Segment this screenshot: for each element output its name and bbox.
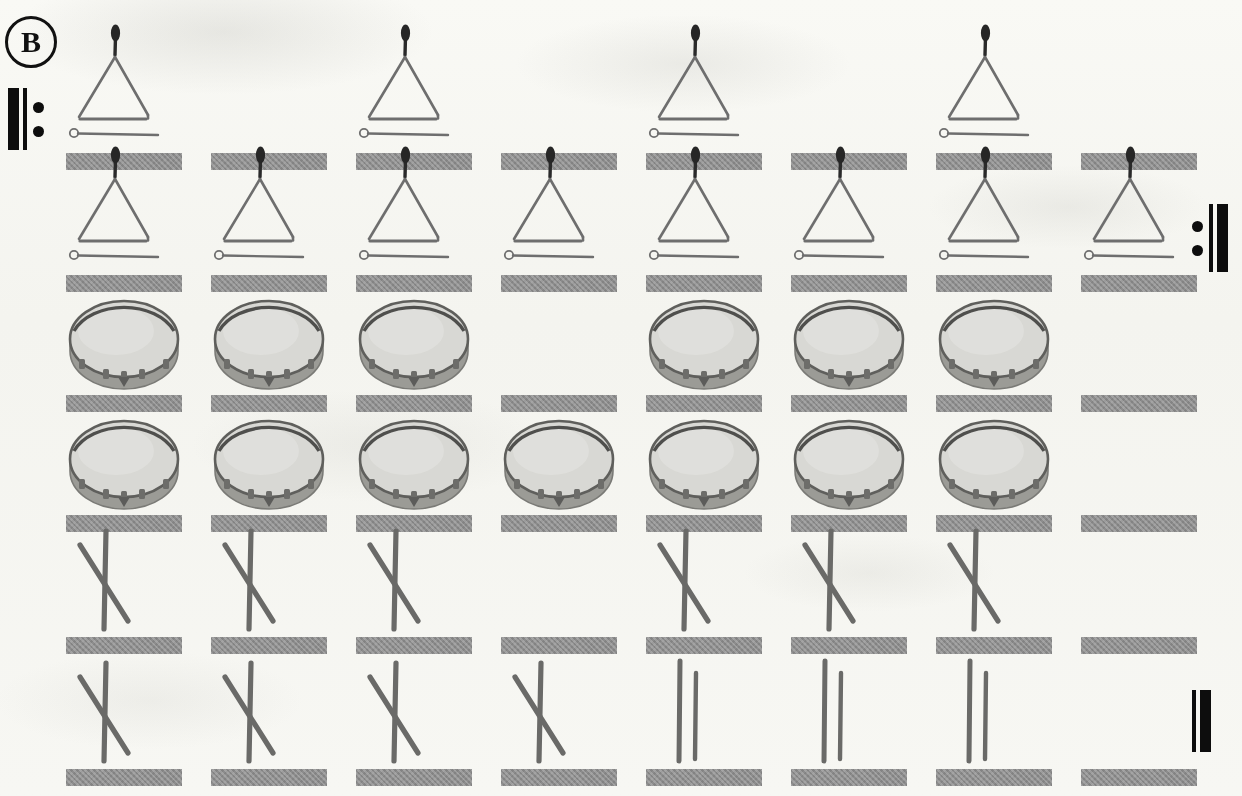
beat-cell[interactable] bbox=[791, 540, 907, 654]
beat-cell[interactable] bbox=[211, 180, 327, 292]
beat-bar[interactable] bbox=[646, 275, 762, 292]
beat-bar[interactable] bbox=[211, 769, 327, 786]
beat-cell[interactable] bbox=[791, 300, 907, 412]
beat-bar[interactable] bbox=[66, 637, 182, 654]
claves-parallel-icon bbox=[646, 657, 762, 767]
beat-bar[interactable] bbox=[646, 769, 762, 786]
beat-cell[interactable] bbox=[936, 540, 1052, 654]
beat-cell[interactable] bbox=[356, 180, 472, 292]
hand-drum-icon bbox=[66, 413, 182, 513]
barline-thick bbox=[8, 88, 19, 150]
beat-bar[interactable] bbox=[936, 275, 1052, 292]
beat-bar[interactable] bbox=[1081, 637, 1197, 654]
beat-cell[interactable] bbox=[1081, 420, 1197, 532]
beat-cell[interactable] bbox=[936, 420, 1052, 532]
beat-cell[interactable] bbox=[211, 662, 327, 786]
beat-cell[interactable] bbox=[356, 300, 472, 412]
beat-cell[interactable] bbox=[646, 420, 762, 532]
claves-crossed-icon bbox=[211, 525, 327, 635]
beat-cell[interactable] bbox=[501, 540, 617, 654]
beat-bar[interactable] bbox=[646, 395, 762, 412]
beat-cell[interactable] bbox=[356, 420, 472, 532]
beat-bar[interactable] bbox=[791, 769, 907, 786]
triangle-icon bbox=[66, 25, 182, 151]
beat-bar[interactable] bbox=[1081, 515, 1197, 532]
beat-bar[interactable] bbox=[66, 275, 182, 292]
claves-crossed-icon bbox=[356, 657, 472, 767]
beat-cell[interactable] bbox=[66, 300, 182, 412]
beat-cell[interactable] bbox=[1081, 662, 1197, 786]
beat-bar[interactable] bbox=[791, 275, 907, 292]
beat-cell[interactable] bbox=[501, 300, 617, 412]
beat-cell[interactable] bbox=[936, 180, 1052, 292]
beat-cell[interactable] bbox=[356, 662, 472, 786]
beat-cell[interactable] bbox=[791, 180, 907, 292]
beat-cell[interactable] bbox=[501, 180, 617, 292]
beat-cell[interactable] bbox=[646, 180, 762, 292]
hand-drum-icon bbox=[646, 413, 762, 513]
beat-cell[interactable] bbox=[936, 662, 1052, 786]
beat-cell[interactable] bbox=[66, 540, 182, 654]
beat-bar[interactable] bbox=[501, 515, 617, 532]
beat-cell[interactable] bbox=[791, 420, 907, 532]
beat-cell[interactable] bbox=[1081, 180, 1197, 292]
claves-crossed-icon bbox=[66, 525, 182, 635]
beat-cell[interactable] bbox=[646, 662, 762, 786]
beat-cell[interactable] bbox=[1081, 300, 1197, 412]
beat-cell[interactable] bbox=[646, 540, 762, 654]
hand-drum-icon bbox=[356, 413, 472, 513]
beat-cell[interactable] bbox=[501, 662, 617, 786]
beat-cell[interactable] bbox=[66, 180, 182, 292]
claves-crossed-icon bbox=[501, 657, 617, 767]
beat-cell[interactable] bbox=[936, 300, 1052, 412]
repeat-dots bbox=[1186, 204, 1209, 272]
hand-drum-icon bbox=[791, 413, 907, 513]
beat-bar[interactable] bbox=[211, 637, 327, 654]
beat-bar[interactable] bbox=[501, 395, 617, 412]
beat-bar[interactable] bbox=[936, 395, 1052, 412]
panel-label: B bbox=[5, 16, 57, 68]
beat-bar[interactable] bbox=[501, 275, 617, 292]
beat-bar[interactable] bbox=[356, 395, 472, 412]
claves-parallel-icon bbox=[791, 657, 907, 767]
claves-crossed-icon bbox=[66, 657, 182, 767]
beat-bar[interactable] bbox=[1081, 275, 1197, 292]
beat-cell[interactable] bbox=[211, 540, 327, 654]
repeat-start-sign bbox=[8, 88, 50, 150]
beat-cell[interactable] bbox=[66, 662, 182, 786]
beat-cell[interactable] bbox=[646, 300, 762, 412]
beat-bar[interactable] bbox=[791, 395, 907, 412]
beat-bar[interactable] bbox=[66, 395, 182, 412]
beat-cell[interactable] bbox=[501, 420, 617, 532]
beat-cell[interactable] bbox=[211, 300, 327, 412]
repeat-dot-lower bbox=[1192, 245, 1203, 256]
rhythm-row bbox=[0, 420, 1242, 532]
beat-bar[interactable] bbox=[646, 637, 762, 654]
beat-bar[interactable] bbox=[356, 769, 472, 786]
beat-bar[interactable] bbox=[501, 769, 617, 786]
beat-bar[interactable] bbox=[936, 769, 1052, 786]
rhythm-row bbox=[0, 300, 1242, 412]
repeat-dots bbox=[27, 88, 50, 150]
beat-cell[interactable] bbox=[211, 420, 327, 532]
triangle-icon bbox=[791, 147, 907, 273]
beat-cell[interactable] bbox=[1081, 540, 1197, 654]
beat-bar[interactable] bbox=[211, 395, 327, 412]
beat-bar[interactable] bbox=[1081, 769, 1197, 786]
beat-bar[interactable] bbox=[936, 637, 1052, 654]
rhythm-row bbox=[0, 540, 1242, 654]
beat-cell[interactable] bbox=[791, 662, 907, 786]
beat-bar[interactable] bbox=[211, 275, 327, 292]
beat-bar[interactable] bbox=[356, 637, 472, 654]
beat-cell[interactable] bbox=[356, 540, 472, 654]
beat-bar[interactable] bbox=[356, 275, 472, 292]
hand-drum-icon bbox=[211, 293, 327, 393]
beat-bar[interactable] bbox=[791, 637, 907, 654]
beat-bar[interactable] bbox=[66, 769, 182, 786]
beat-cell[interactable] bbox=[66, 420, 182, 532]
triangle-icon bbox=[356, 147, 472, 273]
repeat-dot-upper bbox=[1192, 221, 1203, 232]
hand-drum-icon bbox=[66, 293, 182, 393]
beat-bar[interactable] bbox=[1081, 395, 1197, 412]
beat-bar[interactable] bbox=[501, 637, 617, 654]
